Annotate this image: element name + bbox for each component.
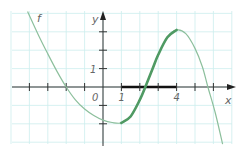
y-axis-arrow (100, 11, 106, 20)
function-curve-increasing-part (121, 30, 176, 123)
x-tick-label: 4 (174, 92, 180, 103)
function-label: f (37, 12, 43, 25)
y-axis-label: y (91, 13, 99, 26)
x-tick-label: 1 (118, 92, 124, 103)
x-axis-label: x (224, 94, 232, 107)
origin-label: 0 (92, 92, 98, 103)
function-plot: x y 0 f 141 (0, 0, 241, 152)
y-tick-label: 1 (90, 64, 96, 75)
axes (12, 11, 236, 146)
